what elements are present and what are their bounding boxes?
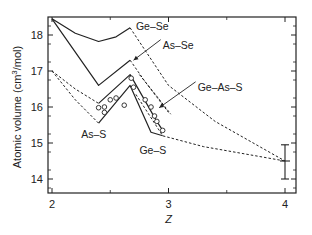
x-tick-label: 4 <box>282 198 288 210</box>
y-tick-label: 14 <box>31 173 43 185</box>
data-marker-open-circle <box>102 110 107 115</box>
series-line-as-se <box>52 19 130 86</box>
annotation-arrow-line <box>134 40 161 61</box>
data-marker-open-circle <box>152 114 157 119</box>
data-marker-open-circle <box>155 119 160 124</box>
x-tick-label: 3 <box>165 198 171 210</box>
data-marker-open-circle <box>129 76 134 81</box>
series-label-as-se: As–Se <box>163 39 194 51</box>
series-line-as-s-dashed-lead <box>52 71 99 123</box>
data-marker-open-circle <box>102 105 107 110</box>
data-marker-open-circle <box>143 98 148 103</box>
data-marker-open-circle <box>108 98 113 103</box>
series-label-ge-s: Ge–S <box>139 144 166 156</box>
y-tick-label: 15 <box>31 137 43 149</box>
data-marker-open-circle <box>96 105 101 110</box>
y-tick-label: 16 <box>31 101 43 113</box>
annotation-arrow-line <box>159 82 195 108</box>
data-marker-open-circle <box>149 105 154 110</box>
data-marker-open-circle <box>114 96 119 101</box>
series-line-ge-se <box>52 19 130 42</box>
y-axis-title-tail: /mol) <box>11 46 23 70</box>
data-marker-open-circle <box>131 85 136 90</box>
data-marker-open-circle <box>122 103 127 108</box>
plot-area: 1415161718234ZAtomic volume (cm3/mol)Ge–… <box>10 17 296 225</box>
y-axis-title-main: Atomic volume (cm <box>11 75 23 169</box>
series-label-ge-se: Ge–Se <box>136 20 169 32</box>
series-label-as-s: As–S <box>81 128 106 140</box>
series-line-ge-se-extrapolation <box>130 28 285 161</box>
y-axis-title: Atomic volume (cm3/mol) <box>10 46 23 168</box>
x-axis-title: Z <box>164 213 173 225</box>
data-marker-open-circle <box>160 128 165 133</box>
atomic-volume-chart: 1415161718234ZAtomic volume (cm3/mol)Ge–… <box>0 0 312 235</box>
series-label-ge-as-s: Ge–As–S <box>198 81 243 93</box>
series-line-ge-as-s <box>99 75 163 131</box>
series-line-as-s <box>99 85 163 135</box>
y-tick-label: 18 <box>31 29 43 41</box>
y-tick-label: 17 <box>31 65 43 77</box>
x-tick-label: 2 <box>49 198 55 210</box>
arrowhead-icon <box>134 56 139 61</box>
